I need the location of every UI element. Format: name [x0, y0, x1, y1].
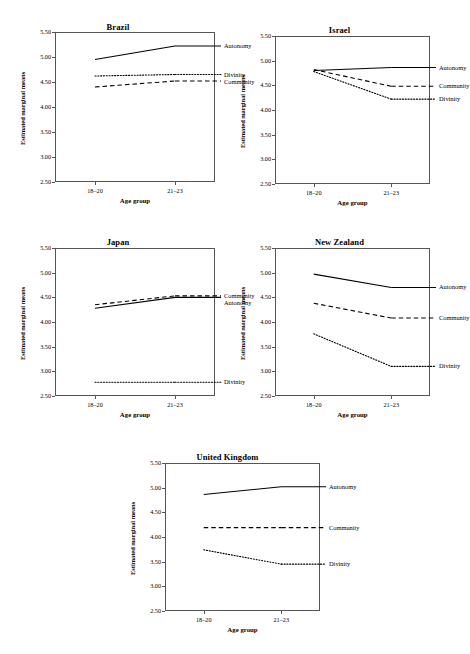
y-tick-mark-newzl-1: [272, 273, 275, 274]
y-tick-mark-newzl-6: [272, 396, 275, 397]
y-tick-label-uk-2: 4.50: [139, 508, 161, 515]
series-lines-brazil: [55, 32, 215, 182]
y-tick-mark-brazil-2: [52, 82, 55, 83]
y-tick-mark-brazil-6: [52, 182, 55, 183]
y-tick-mark-newzl-4: [272, 347, 275, 348]
x-tick-mark-japan-1: [175, 396, 176, 399]
series-lines-japan: [55, 248, 215, 396]
x-tick-label-uk-0: 18–20: [186, 616, 222, 623]
x-tick-label-brazil-1: 21–23: [157, 187, 193, 194]
y-tick-label-brazil-2: 4.50: [29, 78, 51, 85]
y-tick-mark-brazil-0: [52, 32, 55, 33]
y-tick-label-uk-1: 5.00: [139, 484, 161, 491]
series-line-newzl-autonomy: [314, 274, 392, 287]
y-tick-label-newzl-6: 2.50: [249, 392, 271, 399]
series-label-brazil-divinity: Divinity: [224, 71, 245, 78]
y-tick-label-brazil-6: 2.50: [29, 178, 51, 185]
plot-frame-newzl: [275, 248, 430, 396]
x-axis-label-israel: Age group: [275, 199, 430, 206]
series-line-brazil-autonomy: [95, 46, 175, 60]
series-line-uk-divinity: [204, 550, 282, 564]
y-tick-label-newzl-5: 3.00: [249, 367, 271, 374]
y-tick-mark-brazil-5: [52, 157, 55, 158]
series-label-brazil-community: Community: [224, 78, 255, 85]
y-tick-mark-japan-0: [52, 248, 55, 249]
series-label-japan-autonomy: Autonomy: [224, 299, 251, 306]
y-tick-mark-uk-1: [162, 488, 165, 489]
x-tick-label-japan-0: 18–20: [77, 401, 113, 408]
y-tick-mark-israel-0: [272, 36, 275, 37]
y-tick-label-japan-6: 2.50: [29, 392, 51, 399]
x-tick-mark-uk-0: [204, 611, 205, 614]
series-label-uk-divinity: Divinity: [329, 560, 350, 567]
y-tick-mark-israel-4: [272, 135, 275, 136]
series-line-israel-community: [314, 70, 392, 87]
y-tick-mark-japan-4: [52, 347, 55, 348]
x-tick-mark-newzl-1: [391, 396, 392, 399]
x-tick-mark-israel-0: [314, 184, 315, 187]
plot-area-japan: [55, 248, 215, 396]
y-tick-mark-brazil-3: [52, 107, 55, 108]
x-axis-label-japan: Age group: [55, 411, 215, 418]
y-axis-label-newzl: Estimated marginal means: [239, 287, 246, 360]
y-tick-mark-japan-5: [52, 371, 55, 372]
series-line-israel-autonomy: [314, 68, 392, 71]
series-label-israel-divinity: Divinity: [439, 95, 460, 102]
series-label-japan-community: Community: [224, 292, 255, 299]
y-tick-label-uk-0: 5.50: [139, 459, 161, 466]
y-tick-label-brazil-0: 5.50: [29, 28, 51, 35]
y-tick-mark-israel-3: [272, 110, 275, 111]
series-label-newzl-divinity: Divinity: [439, 362, 460, 369]
y-tick-mark-uk-0: [162, 463, 165, 464]
y-tick-label-brazil-5: 3.00: [29, 153, 51, 160]
x-axis-label-newzl: Age group: [275, 411, 430, 418]
series-line-newzl-community: [314, 303, 392, 318]
x-tick-mark-brazil-1: [175, 182, 176, 185]
y-tick-label-japan-4: 3.50: [29, 343, 51, 350]
series-line-brazil-community: [95, 81, 175, 87]
x-axis-label-uk: Age group: [165, 626, 320, 633]
plot-frame-japan: [55, 248, 215, 396]
series-label-uk-community: Community: [329, 524, 360, 531]
plot-area-newzl: [275, 248, 430, 396]
x-tick-label-newzl-0: 18–20: [296, 401, 332, 408]
y-tick-mark-uk-4: [162, 562, 165, 563]
series-line-brazil-divinity: [95, 75, 175, 77]
y-tick-mark-israel-1: [272, 61, 275, 62]
y-tick-label-japan-0: 5.50: [29, 244, 51, 251]
panel-title-newzl: New Zealand: [262, 237, 417, 247]
y-tick-label-israel-6: 2.50: [249, 180, 271, 187]
x-tick-label-israel-0: 18–20: [296, 189, 332, 196]
series-line-newzl-divinity: [314, 334, 392, 367]
x-tick-mark-brazil-0: [95, 182, 96, 185]
series-label-newzl-community: Community: [439, 314, 470, 321]
y-axis-label-israel: Estimated marginal means: [239, 75, 246, 148]
y-tick-label-israel-3: 4.00: [249, 106, 271, 113]
y-tick-label-israel-2: 4.50: [249, 81, 271, 88]
series-line-israel-divinity: [314, 72, 392, 100]
y-tick-mark-japan-3: [52, 322, 55, 323]
y-tick-label-israel-0: 5.50: [249, 32, 271, 39]
y-tick-mark-uk-5: [162, 586, 165, 587]
panel-title-brazil: Brazil: [38, 22, 198, 32]
x-tick-label-israel-1: 21–23: [373, 189, 409, 196]
y-tick-label-newzl-1: 5.00: [249, 269, 271, 276]
panel-title-israel: Israel: [262, 25, 417, 35]
y-tick-mark-uk-6: [162, 611, 165, 612]
panel-title-japan: Japan: [38, 237, 198, 247]
x-axis-label-brazil: Age group: [55, 197, 215, 204]
series-lines-newzl: [275, 248, 430, 396]
series-line-japan-community: [95, 296, 175, 305]
y-tick-label-uk-4: 3.50: [139, 558, 161, 565]
x-tick-label-uk-1: 21–23: [263, 616, 299, 623]
y-tick-label-uk-3: 4.00: [139, 533, 161, 540]
series-label-israel-autonomy: Autonomy: [439, 64, 466, 71]
y-axis-label-uk: Estimated marginal means: [129, 502, 136, 575]
y-tick-label-newzl-4: 3.50: [249, 343, 271, 350]
x-tick-label-brazil-0: 18–20: [77, 187, 113, 194]
plot-area-uk: [165, 463, 320, 611]
